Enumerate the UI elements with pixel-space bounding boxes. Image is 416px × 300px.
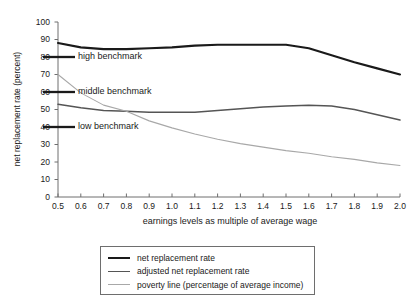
- legend-line-swatch: [108, 271, 130, 272]
- y-tick-label: 70: [24, 69, 50, 79]
- legend-item-label: net replacement rate: [137, 253, 215, 263]
- legend-item-label: poverty line (percentage of average inco…: [137, 280, 303, 290]
- legend-item: poverty line (percentage of average inco…: [101, 278, 314, 292]
- chart-figure: net replacement rate (percent) 010203040…: [0, 0, 416, 300]
- y-tick-label: 60: [24, 87, 50, 97]
- x-axis-title: earnings levels as multiple of average w…: [58, 216, 402, 226]
- legend-line-swatch: [108, 257, 130, 259]
- y-tick-label: 40: [24, 122, 50, 132]
- legend-line-swatch: [108, 284, 130, 285]
- legend-item: net replacement rate: [101, 251, 314, 265]
- x-tick-label: 2.0: [387, 201, 413, 211]
- benchmark-label-2: middle benchmark: [78, 86, 152, 96]
- y-tick-label: 80: [24, 52, 50, 62]
- benchmark-label-3: low benchmark: [78, 121, 139, 131]
- y-tick-label: 100: [24, 17, 50, 27]
- y-tick-label: 30: [24, 139, 50, 149]
- series-layer: [58, 43, 400, 166]
- y-tick-label: 90: [24, 34, 50, 44]
- chart-legend: net replacement rateadjusted net replace…: [100, 246, 315, 295]
- y-tick-label: 50: [24, 104, 50, 114]
- legend-item: adjusted net replacement rate: [101, 265, 314, 279]
- benchmark-label-1: high benchmark: [78, 51, 142, 61]
- legend-item-label: adjusted net replacement rate: [137, 266, 249, 276]
- y-tick-label: 0: [24, 192, 50, 202]
- y-tick-label: 20: [24, 157, 50, 167]
- y-tick-label: 10: [24, 174, 50, 184]
